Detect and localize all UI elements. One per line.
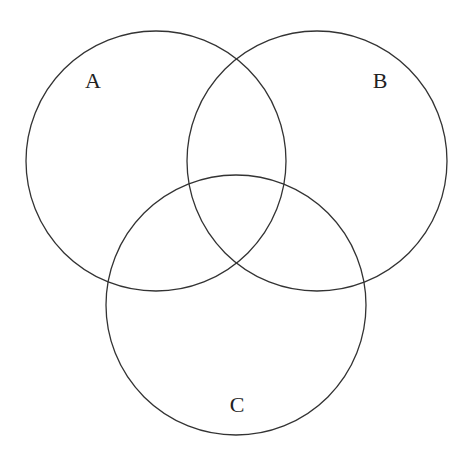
- circle-a: [26, 31, 286, 291]
- label-b: B: [373, 68, 388, 93]
- circle-b: [187, 31, 447, 291]
- label-a: A: [85, 68, 101, 93]
- label-c: C: [230, 392, 245, 417]
- venn-diagram: A B C: [0, 0, 463, 455]
